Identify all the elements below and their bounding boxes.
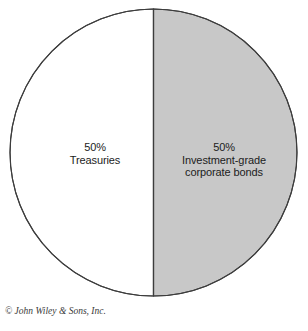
pie-slice-corporate-bonds (154, 9, 297, 296)
pie-chart-figure: 50% Treasuries 50% Investment-grade corp… (0, 0, 308, 331)
copyright-credit: © John Wiley & Sons, Inc. (5, 306, 106, 317)
pie-slice-treasuries (10, 9, 153, 296)
pie-chart-graphic (0, 0, 308, 331)
